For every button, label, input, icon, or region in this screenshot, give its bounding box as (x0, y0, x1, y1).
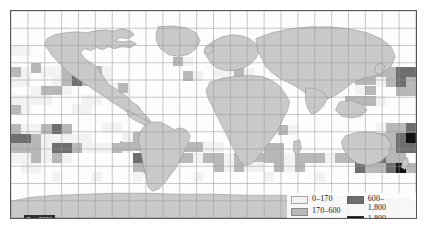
legend-label-600-1800: 600– 1,800 (368, 195, 387, 212)
data-cell (82, 143, 92, 153)
data-cell (21, 153, 31, 163)
data-cell (406, 77, 416, 87)
data-cell (72, 143, 82, 153)
data-cell (112, 123, 122, 133)
data-cell (21, 77, 31, 87)
data-cell (31, 134, 41, 144)
data-cell (102, 143, 112, 153)
data-cell (386, 123, 396, 133)
data-cell (244, 68, 254, 78)
legend-swatch-600-1800 (347, 196, 364, 204)
data-cell (376, 77, 386, 87)
data-cell (62, 143, 72, 153)
data-cell (31, 153, 41, 163)
data-cell (365, 86, 375, 96)
data-cell (365, 163, 375, 173)
data-cell (11, 95, 21, 105)
data-cell (173, 142, 183, 152)
data-cell (102, 66, 112, 76)
data-cell (396, 123, 406, 133)
legend-label-1800-4485: 1,800– 4,485 (368, 215, 391, 219)
data-cell (153, 163, 163, 173)
data-cell (133, 153, 143, 163)
data-cell (21, 134, 31, 144)
legend: 0–170 170–600 600– 1,800 1,800– 4,485 (287, 193, 417, 219)
data-cell (11, 153, 21, 163)
data-cell (406, 123, 416, 133)
data-cell (244, 162, 254, 172)
data-cell (386, 77, 396, 87)
legend-item-170-600: 170–600 (291, 207, 341, 216)
data-cell (143, 163, 153, 173)
data-cell (143, 132, 153, 142)
data-cell (153, 153, 163, 163)
data-cell (264, 143, 274, 153)
data-cell (345, 96, 355, 106)
data-cell (376, 123, 386, 133)
data-cell (315, 153, 325, 163)
data-cell (62, 66, 72, 76)
legend-label-0-170: 0–170 (312, 195, 333, 204)
data-cell (386, 143, 396, 153)
data-cell (108, 83, 118, 93)
data-cell (72, 66, 82, 76)
data-cell (335, 153, 345, 163)
data-cell (92, 172, 102, 182)
data-cell (133, 172, 143, 182)
data-cell (376, 153, 386, 163)
data-cell (345, 52, 355, 62)
legend-swatch-1800-4485 (347, 216, 364, 219)
data-cell (11, 46, 21, 56)
data-cell (183, 57, 193, 67)
data-cell (193, 71, 203, 81)
data-cell (386, 153, 396, 163)
data-cell (72, 76, 82, 86)
data-cell (118, 94, 128, 104)
data-cell (21, 163, 31, 173)
data-cell (288, 125, 298, 135)
data-cell (52, 153, 62, 163)
data-cell (376, 67, 386, 77)
data-cell (41, 134, 51, 144)
data-cell (396, 87, 406, 97)
data-cell (386, 67, 396, 77)
data-cell (72, 134, 82, 144)
data-cell (295, 162, 305, 172)
data-cell (278, 125, 288, 135)
data-cell (214, 68, 224, 78)
data-cell (315, 67, 325, 77)
data-cell (365, 75, 375, 85)
data-cell (52, 124, 62, 134)
data-cell (41, 95, 51, 105)
map-frame: 0–170 170–600 600– 1,800 1,800– 4,485 (10, 10, 417, 219)
data-cell (41, 124, 51, 134)
data-cell (143, 153, 153, 163)
data-cell (31, 95, 41, 105)
data-cell (376, 163, 386, 173)
data-cell (120, 141, 130, 151)
data-cell-layer (11, 11, 416, 218)
legend-swatch-0-170 (291, 196, 308, 204)
data-cell (238, 133, 248, 143)
data-cell (21, 46, 31, 56)
data-cell (82, 104, 92, 114)
data-cell (31, 163, 41, 173)
data-cell (234, 68, 244, 78)
data-cell (396, 153, 406, 163)
data-cell (376, 143, 386, 153)
data-cell (31, 143, 41, 153)
data-cell (173, 153, 183, 163)
data-cell (108, 94, 118, 104)
legend-label-170-600: 170–600 (312, 207, 341, 216)
data-cell (325, 153, 335, 163)
data-cell (31, 63, 41, 73)
data-cell (62, 86, 72, 96)
legend-item-1800-4485: 1,800– 4,485 (347, 215, 391, 219)
data-cell (214, 142, 224, 152)
data-cell (406, 133, 416, 143)
data-cell (406, 67, 416, 77)
data-cell (72, 104, 82, 114)
data-cell (396, 143, 406, 153)
data-cell (264, 172, 274, 182)
data-cell (163, 142, 173, 152)
